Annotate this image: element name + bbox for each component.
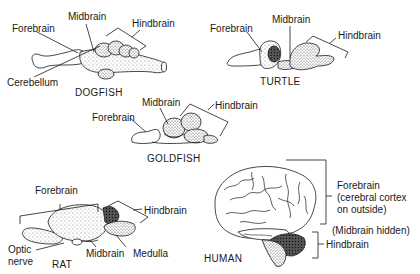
turtle-name: TURTLE: [260, 76, 301, 87]
dogfish-cerebellum-label: Cerebellum: [7, 77, 58, 88]
human-midbrain-hidden-label: (Midbrain hidden): [332, 225, 410, 236]
turtle-hindbrain-label: Hindbrain: [338, 30, 381, 41]
rat-hindbrain-label: Hindbrain: [144, 205, 187, 216]
rat-name: RAT: [52, 259, 72, 270]
goldfish-hindbrain-label: Hindbrain: [215, 100, 258, 111]
turtle-forebrain-label: Forebrain: [210, 23, 253, 34]
human-hindbrain-label: Hindbrain: [326, 239, 369, 250]
goldfish-name: GOLDFISH: [147, 153, 201, 164]
rat-forebrain-label: Forebrain: [35, 185, 78, 196]
rat-brain: [20, 201, 148, 250]
brain-comparison-diagram: Forebrain Midbrain Hindbrain Cerebellum …: [0, 0, 420, 274]
goldfish-midbrain-label: Midbrain: [142, 97, 180, 108]
human-brain: [215, 160, 332, 266]
goldfish-forebrain-label: Forebrain: [92, 112, 135, 123]
turtle-midbrain-label: Midbrain: [272, 14, 310, 25]
dogfish-name: DOGFISH: [75, 87, 123, 98]
dogfish-midbrain-label: Midbrain: [68, 11, 106, 22]
human-name: HUMAN: [204, 253, 242, 264]
human-forebrain-label-1: Forebrain: [337, 180, 380, 191]
rat-medulla-label: Medulla: [133, 248, 168, 259]
rat-optic-nerve-label-2: nerve: [8, 256, 33, 267]
dogfish-hindbrain-label: Hindbrain: [132, 18, 175, 29]
rat-midbrain-label: Midbrain: [86, 248, 124, 259]
human-forebrain-label-3: on outside): [337, 204, 386, 215]
rat-optic-nerve-label-1: Optic: [8, 244, 31, 255]
goldfish-brain: [130, 104, 228, 144]
human-forebrain-label-2: (cerebral cortex: [337, 192, 406, 203]
dogfish-forebrain-label: Forebrain: [12, 23, 55, 34]
